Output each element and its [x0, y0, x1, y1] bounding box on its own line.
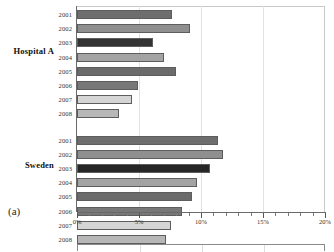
- x-tick-label-10pct: 10%: [186, 218, 216, 225]
- bar-row: [77, 164, 325, 173]
- group-label-hospital-a: Hospital A: [2, 46, 54, 56]
- x-tick-label-20pct: 20%: [310, 218, 334, 225]
- x-tick-minor-7: [164, 213, 165, 216]
- bar-row: [77, 10, 325, 19]
- x-tick-minor-11: [213, 213, 214, 216]
- y-tick-label: 2008: [52, 110, 72, 117]
- next-panel-gridline-10pct: [202, 245, 203, 252]
- bar-row: [77, 24, 325, 33]
- y-tick-label: 2004: [52, 54, 72, 61]
- x-tick-minor-16: [275, 213, 276, 216]
- bar-sweden-2002: [77, 150, 223, 159]
- y-tick-label: 2003: [52, 39, 72, 46]
- x-tick-minor-17: [288, 213, 289, 216]
- y-tick-label: 2002: [52, 25, 72, 32]
- next-panel-gridline-15pct: [264, 245, 265, 252]
- bar-hospital-a-2008: [77, 109, 119, 118]
- y-tick-label: 2001: [52, 137, 72, 144]
- bar-sweden-2008: [77, 235, 166, 244]
- x-tick-minor-3: [114, 213, 115, 216]
- y-tick-label: 2007: [52, 96, 72, 103]
- x-tick-minor-19: [313, 213, 314, 216]
- x-tick-minor-9: [189, 213, 190, 216]
- bar-row: [77, 178, 325, 187]
- y-tick-label: 2006: [52, 82, 72, 89]
- bar-sweden-2004: [77, 178, 197, 187]
- x-tick-minor-4: [127, 213, 128, 216]
- y-tick-label: 2003: [52, 165, 72, 172]
- y-tick-label: 2008: [52, 236, 72, 243]
- y-tick-label: 2004: [52, 179, 72, 186]
- bar-hospital-a-2007: [77, 95, 132, 104]
- x-tick-minor-1: [89, 213, 90, 216]
- x-tick-minor-13: [238, 213, 239, 216]
- bar-sweden-2003: [77, 164, 210, 173]
- x-tick-minor-6: [151, 213, 152, 216]
- bar-hospital-a-2001: [77, 10, 172, 19]
- bar-sweden-2005: [77, 192, 192, 201]
- x-tick-label-15pct: 15%: [248, 218, 278, 225]
- bar-row: [77, 81, 325, 90]
- bar-row: [77, 109, 325, 118]
- x-tick-minor-2: [102, 213, 103, 216]
- y-tick-label: 2002: [52, 151, 72, 158]
- plot-area: [77, 6, 325, 212]
- bar-hospital-a-2004: [77, 53, 164, 62]
- y-tick-label: 2005: [52, 68, 72, 75]
- bar-row: [77, 235, 325, 244]
- bar-hospital-a-2006: [77, 81, 138, 90]
- next-panel-gridline-5pct: [140, 245, 141, 252]
- y-tick-label: 2001: [52, 11, 72, 18]
- next-panel-preview: [77, 244, 325, 251]
- bar-sweden-2001: [77, 136, 218, 145]
- x-tick-minor-12: [226, 213, 227, 216]
- x-tick-minor-8: [176, 213, 177, 216]
- y-tick-label: 2006: [52, 208, 72, 215]
- bar-row: [77, 53, 325, 62]
- bar-hospital-a-2005: [77, 67, 176, 76]
- x-tick-label-5pct: 5%: [124, 218, 154, 225]
- group-label-sweden: Sweden: [2, 160, 54, 170]
- x-tick-label-0pct: 0%: [62, 218, 92, 225]
- bar-hospital-a-2003: [77, 38, 153, 47]
- bar-row: [77, 67, 325, 76]
- bar-row: [77, 38, 325, 47]
- y-tick-label: 2005: [52, 193, 72, 200]
- x-tick-minor-14: [251, 213, 252, 216]
- bar-row: [77, 192, 325, 201]
- bar-row: [77, 95, 325, 104]
- bar-hospital-a-2002: [77, 24, 190, 33]
- bar-row: [77, 136, 325, 145]
- x-tick-minor-18: [300, 213, 301, 216]
- bar-row: [77, 150, 325, 159]
- panel-caption: (a): [8, 205, 20, 217]
